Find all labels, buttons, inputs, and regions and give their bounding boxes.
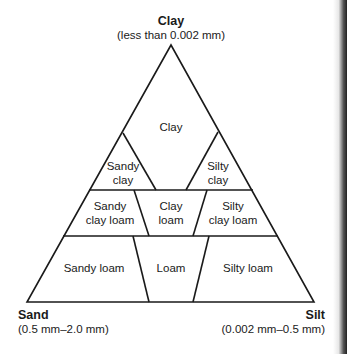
region-loam-label: Loam	[157, 262, 186, 274]
region-silty-clay: Silty clay	[207, 159, 229, 187]
region-sandy-clay-loam-label-2: clay loam	[86, 213, 135, 227]
vertex-silt-range: (0.002 mm–0.5 mm)	[221, 322, 325, 336]
region-clay-loam-label-1: Clay	[159, 199, 184, 213]
region-silty-clay-label-1: Silty	[207, 159, 229, 173]
region-silty-clay-label-2: clay	[207, 173, 229, 187]
region-clay-loam: Clay loam	[159, 199, 184, 227]
divider-loam-left	[133, 236, 149, 302]
region-sandy-clay-loam: Sandy clay loam	[86, 199, 135, 227]
page-edge-shadow	[333, 0, 347, 354]
vertex-silt-label: Silt	[306, 308, 325, 322]
region-silty-loam-label: Silty loam	[223, 262, 273, 274]
divider-clay-loam-right	[193, 190, 207, 236]
region-sandy-clay-label-2: clay	[107, 173, 140, 187]
region-loam: Loam	[157, 261, 186, 275]
divider-clay-loam-left	[134, 190, 149, 236]
region-sandy-clay: Sandy clay	[107, 159, 140, 187]
vertex-sand-range: (0.5 mm–2.0 mm)	[18, 322, 109, 336]
region-silty-clay-loam-label-1: Silty	[209, 199, 258, 213]
region-sandy-loam: Sandy loam	[64, 261, 125, 275]
region-silty-clay-loam: Silty clay loam	[209, 199, 258, 227]
region-sandy-clay-loam-label-1: Sandy	[86, 199, 135, 213]
triangle-outline	[0, 0, 347, 354]
divider-loam-right	[193, 236, 209, 302]
region-clay-label: Clay	[159, 121, 182, 133]
region-silty-clay-loam-label-2: clay loam	[209, 213, 258, 227]
region-sandy-clay-label-1: Sandy	[107, 159, 140, 173]
region-silty-loam: Silty loam	[223, 261, 273, 275]
region-sandy-loam-label: Sandy loam	[64, 262, 125, 274]
region-clay-loam-label-2: loam	[159, 213, 184, 227]
region-clay: Clay	[159, 120, 182, 134]
vertex-sand-label: Sand	[18, 308, 49, 322]
